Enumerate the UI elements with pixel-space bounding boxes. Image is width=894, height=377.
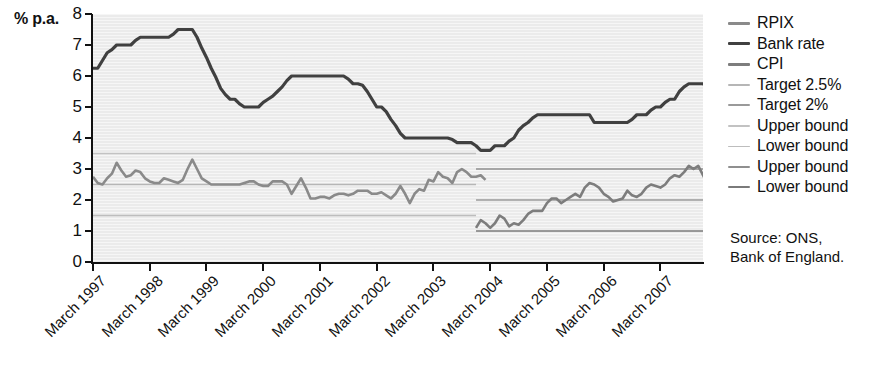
y-tick-label-2: 2 (56, 191, 82, 208)
y-axis-unit-label: % p.a. (14, 10, 59, 28)
x-tick-mark-2006 (603, 264, 605, 271)
x-tick-mark-2002 (376, 264, 378, 271)
legend-swatch-icon-1 (728, 42, 750, 45)
plot-area (93, 14, 703, 262)
series-line-cpi (476, 166, 703, 228)
y-tick-label-6: 6 (56, 67, 82, 84)
x-tick-mark-2000 (262, 264, 264, 271)
x-tick-mark-2007 (659, 264, 661, 271)
y-tick-label-5: 5 (56, 98, 82, 115)
legend-swatch-icon-6 (728, 146, 750, 148)
legend-swatch-icon-3 (728, 84, 750, 86)
legend-swatch-icon-4 (728, 104, 750, 106)
legend-swatch-icon-8 (728, 186, 750, 188)
inflation-bank-rate-chart: % p.a. 876543210 March 1997March 1998Mar… (0, 0, 894, 377)
legend-swatch-icon-5 (728, 125, 750, 127)
series-line-rpix (93, 160, 485, 203)
legend-item-4[interactable]: Target 2% (728, 95, 894, 116)
chart-legend: RPIXBank rateCPITarget 2.5%Target 2%Uppe… (728, 13, 894, 198)
legend-item-0[interactable]: RPIX (728, 13, 894, 34)
legend-label-0: RPIX (757, 15, 794, 31)
y-tick-label-7: 7 (56, 36, 82, 53)
legend-swatch-icon-7 (728, 166, 750, 168)
legend-item-7[interactable]: Upper bound (728, 157, 894, 178)
legend-item-5[interactable]: Upper bound (728, 116, 894, 137)
legend-item-3[interactable]: Target 2.5% (728, 75, 894, 96)
y-tick-label-8: 8 (56, 5, 82, 22)
legend-swatch-icon-2 (728, 63, 750, 66)
y-tick-label-0: 0 (56, 253, 82, 270)
x-tick-mark-1999 (205, 264, 207, 271)
legend-item-2[interactable]: CPI (728, 54, 894, 75)
legend-label-7: Upper bound (757, 159, 848, 175)
plot-series-svg (93, 14, 703, 262)
legend-label-2: CPI (757, 56, 783, 72)
x-tick-mark-2005 (546, 264, 548, 271)
legend-item-6[interactable]: Lower bound (728, 136, 894, 157)
x-tick-mark-1997 (92, 264, 94, 271)
legend-item-8[interactable]: Lower bound (728, 177, 894, 198)
x-tick-mark-2001 (319, 264, 321, 271)
legend-item-1[interactable]: Bank rate (728, 34, 894, 55)
x-tick-mark-1998 (149, 264, 151, 271)
legend-label-1: Bank rate (757, 36, 825, 52)
series-line-bank-rate (93, 30, 703, 151)
y-tick-label-1: 1 (56, 222, 82, 239)
y-tick-label-4: 4 (56, 129, 82, 146)
legend-label-4: Target 2% (757, 97, 828, 113)
legend-label-8: Lower bound (757, 179, 848, 195)
x-tick-mark-2004 (489, 264, 491, 271)
legend-swatch-icon-0 (728, 22, 750, 25)
x-axis-line (91, 262, 704, 264)
y-tick-label-3: 3 (56, 160, 82, 177)
legend-label-5: Upper bound (757, 118, 848, 134)
source-note: Source: ONS, Bank of England. (730, 228, 844, 266)
legend-label-6: Lower bound (757, 138, 848, 154)
x-tick-mark-2003 (432, 264, 434, 271)
legend-label-3: Target 2.5% (757, 77, 841, 93)
